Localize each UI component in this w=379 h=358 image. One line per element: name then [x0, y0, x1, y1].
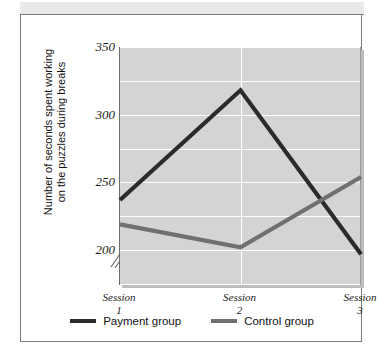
- legend-swatch-control-group: [211, 319, 237, 323]
- figure-frame: 350 300 250 200 Number of seconds spent …: [20, 14, 362, 342]
- y-axis-ticks: 350 300 250 200: [69, 47, 115, 285]
- y-tick-300: 300: [75, 108, 115, 121]
- legend-item-control-group: Control group: [211, 315, 314, 327]
- legend-label-control-group: Control group: [244, 315, 314, 327]
- x-tick-session-2-name: Session: [223, 291, 256, 303]
- x-tick-session-3: Session 3: [320, 291, 379, 317]
- y-tick-350: 350: [75, 40, 115, 53]
- y-axis-title: Number of seconds spent working on the p…: [42, 32, 68, 232]
- series-layer: [120, 47, 362, 285]
- x-tick-session-1-name: Session: [103, 291, 136, 303]
- legend: Payment group Control group: [21, 315, 363, 327]
- series-line-control-group: [120, 177, 361, 247]
- x-tick-session-2: Session 2: [200, 291, 280, 317]
- legend-label-payment-group: Payment group: [103, 315, 181, 327]
- x-tick-session-1: Session 1: [79, 291, 159, 317]
- plot-area: [119, 47, 361, 285]
- x-tick-session-3-name: Session: [344, 291, 377, 303]
- legend-swatch-payment-group: [70, 319, 96, 323]
- legend-item-payment-group: Payment group: [70, 315, 181, 327]
- y-tick-250: 250: [75, 175, 115, 188]
- figure-root: 350 300 250 200 Number of seconds spent …: [0, 0, 379, 358]
